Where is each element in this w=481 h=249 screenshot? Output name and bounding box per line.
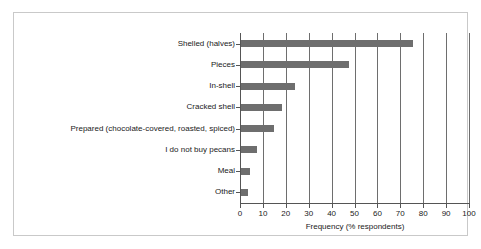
category-label: Cracked shell — [187, 102, 235, 112]
category-label: Pieces — [211, 60, 235, 70]
x-axis-tick-label: 10 — [251, 209, 275, 219]
x-axis-tick — [240, 204, 241, 208]
x-axis-tick-label: 60 — [365, 209, 389, 219]
x-axis-tick — [423, 204, 424, 208]
gridline-20 — [286, 33, 287, 203]
x-axis-tick — [332, 204, 333, 208]
category-label: Other — [215, 187, 235, 197]
x-axis-tick — [446, 204, 447, 208]
x-axis-tick-label: 0 — [228, 209, 252, 219]
category-label: Shelled (halves) — [178, 39, 235, 49]
bar — [241, 189, 248, 196]
category-label: In-shell — [209, 81, 235, 91]
y-axis-tick — [236, 86, 240, 87]
gridline-50 — [355, 33, 356, 203]
bar — [241, 125, 274, 132]
plot-area — [240, 33, 469, 203]
figure-frame: Shelled (halves)PiecesIn-shellCracked sh… — [13, 12, 468, 236]
gridline-10 — [263, 33, 264, 203]
x-axis-tick-label: 70 — [388, 209, 412, 219]
bar — [241, 83, 295, 90]
x-axis-tick-label: 30 — [297, 209, 321, 219]
category-label: Prepared (chocolate-covered, roasted, sp… — [70, 124, 235, 134]
x-axis-tick-label: 100 — [457, 209, 481, 219]
chart-figure: Shelled (halves)PiecesIn-shellCracked sh… — [0, 0, 481, 249]
gridline-70 — [400, 33, 401, 203]
x-axis-title: Frequency (% respondents) — [240, 222, 470, 231]
x-axis-tick — [355, 204, 356, 208]
y-axis-tick — [236, 65, 240, 66]
x-axis-tick-label: 90 — [434, 209, 458, 219]
gridline-90 — [446, 33, 447, 203]
x-axis-tick — [309, 204, 310, 208]
x-axis-tick — [377, 204, 378, 208]
x-axis-tick — [400, 204, 401, 208]
x-axis-tick-label: 80 — [411, 209, 435, 219]
gridline-80 — [423, 33, 424, 203]
category-label: I do not buy pecans — [165, 145, 235, 155]
x-axis-tick — [263, 204, 264, 208]
bar — [241, 40, 413, 47]
y-axis-tick — [236, 150, 240, 151]
gridline-100 — [469, 33, 470, 203]
gridline-40 — [332, 33, 333, 203]
bar — [241, 61, 349, 68]
y-axis-tick — [236, 129, 240, 130]
x-axis-tick-label: 40 — [320, 209, 344, 219]
bar — [241, 104, 282, 111]
y-axis-tick — [236, 107, 240, 108]
y-axis-category-labels: Shelled (halves)PiecesIn-shellCracked sh… — [14, 33, 235, 203]
y-axis-tick — [236, 192, 240, 193]
bar — [241, 146, 257, 153]
x-axis-tick-label: 20 — [274, 209, 298, 219]
bar — [241, 168, 250, 175]
y-axis-line — [240, 33, 241, 203]
gridline-30 — [309, 33, 310, 203]
category-label: Meal — [218, 166, 235, 176]
y-axis-tick — [236, 171, 240, 172]
y-axis-tick — [236, 44, 240, 45]
x-axis-tick-label: 50 — [343, 209, 367, 219]
x-axis-tick — [469, 204, 470, 208]
gridline-60 — [377, 33, 378, 203]
x-axis-tick — [286, 204, 287, 208]
